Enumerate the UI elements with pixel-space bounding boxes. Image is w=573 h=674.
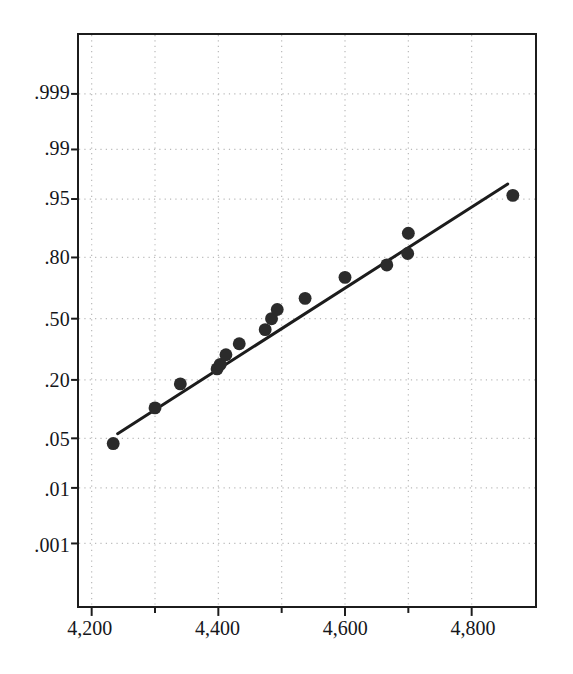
- chart-canvas: .001.01.05.20.50.80.95.99.999 4,2004,400…: [0, 0, 573, 674]
- x-axis-label-group: 4,2004,4004,6004,800: [0, 0, 573, 674]
- x-tick-label: 4,400: [195, 617, 240, 640]
- x-tick-label: 4,800: [451, 617, 496, 640]
- x-tick-label: 4,600: [323, 617, 368, 640]
- x-tick-label: 4,200: [67, 617, 112, 640]
